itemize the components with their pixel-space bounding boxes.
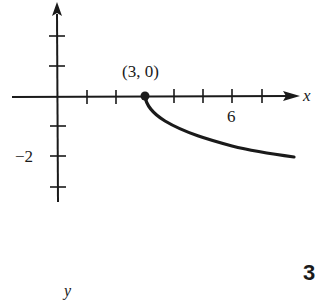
y-tick-label-neg2: −2	[15, 147, 33, 166]
function-curve	[145, 96, 294, 157]
x-axis-label: x	[302, 86, 311, 105]
x-tick-label-6: 6	[227, 107, 236, 126]
y-axis	[57, 14, 58, 202]
y-axis-arrow-icon	[52, 2, 62, 16]
x-axis	[12, 96, 290, 97]
stray-y-label: y	[64, 282, 71, 300]
point-label: (3, 0)	[122, 62, 159, 81]
endpoint-marker	[141, 92, 150, 101]
figure-number: 3	[303, 260, 315, 286]
graph-canvas: (3, 0) x 6 −2	[0, 0, 319, 301]
